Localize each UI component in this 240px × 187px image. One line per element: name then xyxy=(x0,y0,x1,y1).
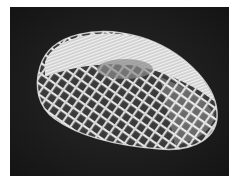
photograph xyxy=(10,7,229,176)
lattice-sculpture xyxy=(10,7,229,176)
